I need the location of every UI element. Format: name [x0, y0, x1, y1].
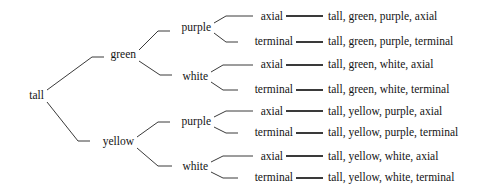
tree-diagram: tall green yellow purple white purple wh… — [0, 0, 503, 191]
branch-tall-to-green — [47, 57, 104, 90]
outcome-label-3: tall, green, white, axial — [328, 58, 433, 71]
node-label-position-3: axial — [261, 58, 283, 70]
outcome-label-4: tall, green, white, terminal — [328, 83, 449, 96]
node-label-position-2: terminal — [255, 35, 293, 47]
branch-white2-to-axial — [211, 156, 253, 162]
branches-yellow-to-level2 — [137, 122, 172, 166]
branch-purple1-to-axial — [214, 16, 253, 23]
branch-white1-to-terminal — [211, 82, 238, 90]
outcome-label-7: tall, yellow, white, axial — [328, 150, 438, 163]
branches-root-to-level1 — [47, 57, 104, 141]
node-label-root: tall — [29, 89, 44, 101]
outcome-label-8: tall, yellow, white, terminal — [328, 171, 454, 184]
branch-tall-to-yellow — [47, 102, 90, 141]
branch-purple1-to-terminal — [214, 33, 238, 42]
node-label-position-1: axial — [261, 10, 283, 22]
node-label-white-yellow: white — [182, 160, 208, 172]
branch-green-to-white — [139, 61, 172, 75]
node-label-position-6: terminal — [255, 126, 293, 138]
node-label-green: green — [110, 48, 136, 61]
node-label-position-8: terminal — [255, 171, 293, 183]
branch-purple2-to-terminal — [214, 127, 238, 133]
branch-green-to-purple — [139, 31, 170, 50]
branches-green-to-level2 — [139, 31, 172, 75]
tree-diagram-canvas: tall green yellow purple white purple wh… — [0, 0, 503, 191]
outcome-label-5: tall, yellow, purple, axial — [328, 105, 442, 118]
node-label-white-green: white — [182, 70, 208, 82]
branch-yellow-to-purple — [137, 122, 170, 137]
node-label-yellow: yellow — [103, 135, 135, 148]
node-label-position-5: axial — [261, 105, 283, 117]
branch-yellow-to-white — [137, 148, 172, 166]
outcome-label-1: tall, green, purple, axial — [328, 10, 437, 23]
branch-white2-to-terminal — [211, 172, 238, 178]
outcome-label-6: tall, yellow, purple, terminal — [328, 126, 458, 139]
node-label-position-4: terminal — [255, 83, 293, 95]
outcome-label-2: tall, green, purple, terminal — [328, 35, 453, 48]
node-label-position-7: axial — [261, 150, 283, 162]
branch-white1-to-axial — [211, 65, 253, 72]
node-label-purple-yellow: purple — [182, 115, 211, 128]
branches-level2-to-level3 — [211, 16, 253, 178]
branch-purple2-to-axial — [214, 111, 253, 117]
node-label-purple-green: purple — [182, 21, 211, 34]
